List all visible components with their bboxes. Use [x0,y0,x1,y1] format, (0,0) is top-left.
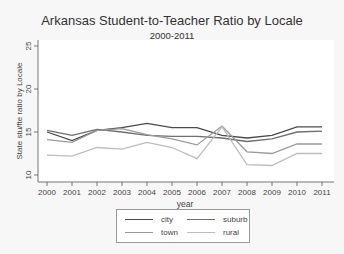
legend-item-suburb: suburb [187,215,247,224]
legend-label: town [161,228,178,237]
y-tick-label: 15 [24,127,33,136]
x-tick-label: 2011 [313,188,331,197]
plot-area [38,40,334,182]
x-tick-label: 2003 [113,188,131,197]
legend-label: suburb [223,215,247,224]
y-axis-label: State stu/fte ratio by Locale [15,62,24,159]
legend-label: city [161,215,173,224]
x-axis-label: year [177,199,194,209]
legend-item-city: city [125,215,173,224]
legend-swatch [125,232,153,233]
legend-item-rural: rural [187,228,239,237]
x-tick-label: 2001 [63,188,81,197]
x-tick-label: 2009 [263,188,281,197]
x-tick-label: 2010 [288,188,306,197]
legend-swatch [125,219,153,220]
x-tick-label: 2006 [188,188,206,197]
chart-legend: city suburb town rural [116,209,250,243]
x-tick-label: 2004 [138,188,156,197]
x-tick-label: 2008 [238,188,256,197]
x-tick-label: 2007 [213,188,231,197]
x-tick-label: 2002 [88,188,106,197]
legend-item-town: town [125,228,178,237]
y-tick-label: 25 [24,41,33,50]
y-tick-label: 10 [24,170,33,179]
legend-label: rural [223,228,239,237]
y-tick-label: 20 [24,84,33,93]
x-tick-label: 2005 [163,188,181,197]
x-tick-label: 2000 [38,188,56,197]
legend-swatch [187,219,215,220]
legend-swatch [187,232,215,233]
